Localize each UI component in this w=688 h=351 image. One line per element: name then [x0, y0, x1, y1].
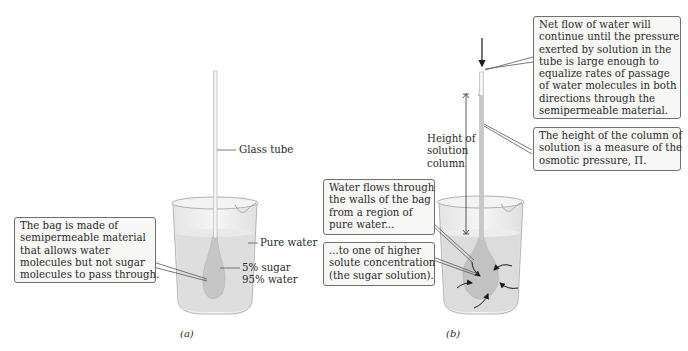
- callout-line: continue until the pressure: [539, 31, 675, 43]
- height-of-solution-label: Height of solution column: [427, 133, 476, 170]
- callout-line: semipermeable material: [20, 232, 150, 244]
- caption-b: (b): [446, 328, 460, 339]
- callout-water-flows: Water flows through the walls of the bag…: [323, 179, 435, 235]
- callout-line: molecules but not sugar: [20, 257, 150, 269]
- callout-line: Net flow of water will: [539, 19, 675, 31]
- height-label-line-1: Height of: [427, 133, 476, 145]
- sugar-label-line-1: 5% sugar: [242, 262, 298, 274]
- callout-line: Water flows through: [329, 182, 429, 194]
- callout-line: osmotic pressure, Π.: [539, 155, 675, 167]
- callout-bag-semipermeable: The bag is made of semipermeable materia…: [14, 217, 156, 283]
- callout-line: equalize rates of passage: [539, 68, 675, 80]
- callout-line: the walls of the bag: [329, 194, 429, 206]
- beaker-b: [438, 72, 524, 314]
- callout-line: that allows water: [20, 245, 150, 257]
- height-label-line-3: column: [427, 158, 476, 170]
- osmosis-figure: Glass tube Pure water 5% sugar 95% water…: [0, 0, 688, 351]
- callout-line: directions through the: [539, 93, 675, 105]
- caption-a: (a): [180, 328, 194, 339]
- callout-osmotic-pressure: The height of the column of solution is …: [533, 127, 681, 171]
- callout-line: solution is a measure of the: [539, 142, 675, 154]
- callout-line: pure water...: [329, 219, 429, 231]
- callout-net-flow: Net flow of water will continue until th…: [533, 16, 681, 119]
- callout-line: from a region of: [329, 207, 429, 219]
- glass-tube-label: Glass tube: [239, 144, 293, 156]
- height-label-line-2: solution: [427, 145, 476, 157]
- callout-line: solute concentration: [329, 257, 429, 269]
- sugar-solution-label: 5% sugar 95% water: [242, 262, 298, 287]
- callout-line: (the sugar solution).: [329, 270, 429, 282]
- callout-line: exerted by solution in the: [539, 44, 675, 56]
- callout-line: ...to one of higher: [329, 245, 429, 257]
- callout-line: molecules to pass through.: [20, 269, 150, 281]
- callout-line: of water molecules in both: [539, 80, 675, 92]
- callout-line: The bag is made of: [20, 220, 150, 232]
- callout-line: semipermeable material.: [539, 105, 675, 117]
- sugar-label-line-2: 95% water: [242, 274, 298, 286]
- callout-higher-concentration: ...to one of higher solute concentration…: [323, 242, 435, 286]
- pure-water-label: Pure water: [260, 237, 317, 249]
- callout-line: The height of the column of: [539, 130, 675, 142]
- callout-line: tube is large enough to: [539, 56, 675, 68]
